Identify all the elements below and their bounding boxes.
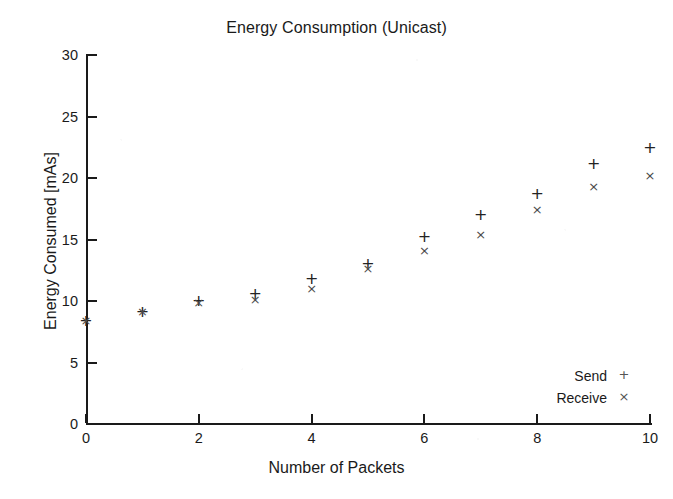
x-tick-label: 0 <box>66 431 106 446</box>
data-point-receive: × <box>530 203 544 217</box>
legend-symbol-send-icon: + <box>617 367 631 382</box>
data-point-send: + <box>530 187 544 201</box>
x-tick-label: 10 <box>630 431 670 446</box>
chart-figure: Energy Consumption (Unicast) 05101520253… <box>0 0 673 499</box>
chart-legend: Send + Receive × <box>505 366 635 410</box>
data-point-receive: × <box>305 282 319 296</box>
data-point-receive: × <box>361 262 375 276</box>
chart-title: Energy Consumption (Unicast) <box>0 19 673 37</box>
data-point-send: + <box>587 157 601 171</box>
data-point-receive: × <box>248 293 262 307</box>
legend-entry-send: Send + <box>505 366 635 388</box>
y-tick-label: 30 <box>40 48 78 63</box>
data-point-receive: × <box>135 305 149 319</box>
legend-entry-receive: Receive × <box>505 388 635 410</box>
y-tick-label: 0 <box>40 417 78 432</box>
legend-symbol-receive-icon: × <box>617 389 631 404</box>
y-axis-title: Energy Consumed [mAs] <box>42 91 60 391</box>
data-point-receive: × <box>79 314 93 328</box>
data-point-send: + <box>417 230 431 244</box>
data-point-receive: × <box>587 180 601 194</box>
data-point-receive: × <box>643 169 657 183</box>
x-tick-label: 2 <box>179 431 219 446</box>
legend-label-receive: Receive <box>556 390 607 406</box>
data-point-send: + <box>643 141 657 155</box>
data-point-receive: × <box>474 228 488 242</box>
x-tick-label: 6 <box>404 431 444 446</box>
x-tick-label: 4 <box>292 431 332 446</box>
data-point-send: + <box>474 208 488 222</box>
x-axis-title: Number of Packets <box>0 459 673 477</box>
legend-label-send: Send <box>574 368 607 384</box>
x-tick-label: 8 <box>517 431 557 446</box>
data-point-receive: × <box>192 296 206 310</box>
data-point-receive: × <box>417 244 431 258</box>
